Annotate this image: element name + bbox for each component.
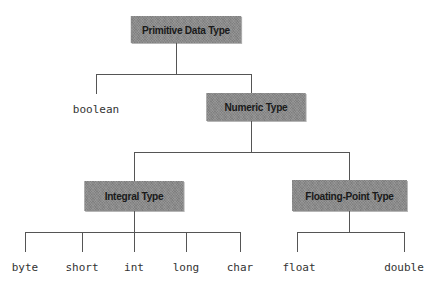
leaf-byte: byte (12, 261, 39, 274)
node-label: Primitive Data Type (142, 24, 230, 36)
connector (297, 232, 298, 252)
node-primitive-data-type: Primitive Data Type (131, 16, 241, 43)
node-floating-point-type: Floating-Point Type (292, 180, 407, 211)
connector (176, 43, 177, 74)
connector (134, 152, 350, 153)
connector (25, 232, 240, 233)
connector (96, 74, 97, 94)
connector (404, 232, 405, 252)
leaf-short: short (65, 261, 98, 274)
connector (240, 232, 241, 252)
leaf-float: float (282, 261, 315, 274)
connector (25, 232, 26, 252)
node-numeric-type: Numeric Type (206, 93, 305, 121)
leaf-boolean: boolean (73, 103, 119, 116)
leaf-long: long (173, 261, 200, 274)
connector (82, 232, 83, 252)
connector (251, 121, 252, 152)
connector (96, 74, 252, 75)
connector (251, 74, 252, 93)
node-label: Numeric Type (225, 101, 288, 113)
connector (134, 211, 135, 232)
connector (134, 232, 135, 252)
connector (297, 232, 405, 233)
connector (186, 232, 187, 252)
leaf-double: double (384, 261, 424, 274)
connector (349, 152, 350, 180)
node-label: Integral Type (105, 190, 164, 202)
node-integral-type: Integral Type (84, 181, 183, 211)
connector (349, 211, 350, 232)
leaf-char: char (227, 261, 254, 274)
leaf-int: int (124, 261, 144, 274)
connector (134, 152, 135, 181)
node-label: Floating-Point Type (305, 190, 393, 202)
